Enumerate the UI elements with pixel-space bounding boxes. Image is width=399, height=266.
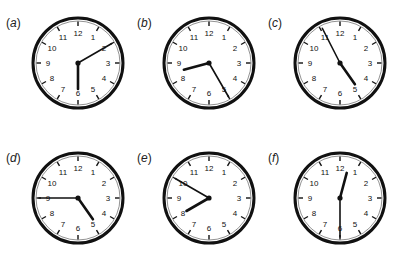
clock-panel-e: (e)121234567891011 (131, 135, 264, 266)
dial-number: 10 (48, 179, 57, 188)
clock-panel-f: (f)121234567891011 (262, 135, 395, 266)
center-pin (206, 195, 211, 200)
dial-number: 8 (181, 209, 186, 218)
dial-number: 8 (50, 74, 55, 83)
dial-number: 2 (364, 179, 369, 188)
center-pin (206, 60, 211, 65)
dial-number: 2 (233, 179, 238, 188)
dial-number: 12 (336, 29, 345, 38)
dial-number: 11 (190, 33, 199, 42)
dial-number: 3 (368, 59, 373, 68)
clock-panel-d: (d)121234567891011 (0, 135, 133, 266)
clock-face-a: 121234567891011 (0, 0, 133, 133)
dial-number: 4 (102, 74, 107, 83)
dial-number: 12 (74, 29, 83, 38)
center-pin (75, 195, 80, 200)
clock-face-d: 121234567891011 (0, 135, 133, 266)
dial-number: 4 (233, 74, 238, 83)
dial-number: 9 (46, 59, 51, 68)
dial-number: 10 (310, 179, 319, 188)
dial-number: 7 (61, 220, 66, 229)
dial-number: 5 (222, 220, 227, 229)
dial-number: 9 (308, 194, 313, 203)
dial-number: 11 (321, 168, 330, 177)
clock-face-c: 121234567891011 (262, 0, 395, 133)
dial-number: 10 (48, 44, 57, 53)
dial-number: 11 (190, 168, 199, 177)
clock-face-f: 121234567891011 (262, 135, 395, 266)
dial-number: 6 (76, 89, 81, 98)
clock-panel-c: (c)121234567891011 (262, 0, 395, 133)
dial-number: 2 (102, 179, 107, 188)
dial-number: 8 (312, 74, 317, 83)
clock-face-b: 121234567891011 (131, 0, 264, 133)
dial-number: 1 (353, 168, 358, 177)
dial-number: 11 (59, 33, 68, 42)
dial-number: 8 (312, 209, 317, 218)
dial-number: 11 (59, 168, 68, 177)
clock-panel-b: (b)121234567891011 (131, 0, 264, 133)
dial-number: 5 (353, 85, 358, 94)
dial-number: 4 (233, 209, 238, 218)
dial-number: 4 (364, 74, 369, 83)
dial-number: 12 (205, 29, 214, 38)
dial-number: 4 (102, 209, 107, 218)
center-pin (75, 60, 80, 65)
dial-number: 8 (181, 74, 186, 83)
dial-number: 3 (106, 194, 111, 203)
dial-number: 6 (76, 224, 81, 233)
dial-number: 10 (179, 44, 188, 53)
dial-number: 5 (91, 220, 96, 229)
dial-number: 12 (205, 164, 214, 173)
dial-number: 7 (192, 85, 197, 94)
dial-number: 7 (323, 85, 328, 94)
center-pin (337, 195, 342, 200)
dial-number: 2 (364, 44, 369, 53)
dial-number: 8 (50, 209, 55, 218)
dial-number: 7 (192, 220, 197, 229)
dial-number: 3 (237, 194, 242, 203)
dial-number: 5 (353, 220, 358, 229)
dial-number: 1 (353, 33, 358, 42)
dial-number: 4 (364, 209, 369, 218)
dial-number: 3 (368, 194, 373, 203)
clock-panel-a: (a)121234567891011 (0, 0, 133, 133)
dial-number: 1 (91, 33, 96, 42)
dial-number: 7 (61, 85, 66, 94)
dial-number: 6 (207, 89, 212, 98)
dial-number: 2 (233, 44, 238, 53)
dial-number: 3 (237, 59, 242, 68)
dial-number: 12 (74, 164, 83, 173)
dial-number: 9 (177, 59, 182, 68)
dial-number: 1 (222, 33, 227, 42)
dial-number: 6 (207, 224, 212, 233)
dial-number: 6 (338, 89, 343, 98)
dial-number: 1 (222, 168, 227, 177)
dial-number: 12 (336, 164, 345, 173)
dial-number: 10 (310, 44, 319, 53)
dial-number: 3 (106, 59, 111, 68)
dial-number: 7 (323, 220, 328, 229)
dial-number: 5 (91, 85, 96, 94)
dial-number: 9 (308, 59, 313, 68)
center-pin (337, 60, 342, 65)
clock-face-e: 121234567891011 (131, 135, 264, 266)
dial-number: 9 (177, 194, 182, 203)
dial-number: 1 (91, 168, 96, 177)
